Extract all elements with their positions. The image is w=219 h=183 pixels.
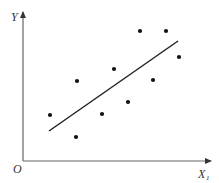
data-point bbox=[151, 78, 155, 82]
y-axis-label: Y bbox=[11, 10, 19, 24]
axes bbox=[23, 12, 211, 161]
x-axis-label-group: X 1 bbox=[197, 167, 210, 182]
data-point bbox=[112, 67, 116, 71]
x-axis-label: X bbox=[197, 167, 206, 181]
data-point bbox=[126, 100, 130, 104]
data-point bbox=[74, 135, 78, 139]
origin-label: O bbox=[13, 162, 22, 176]
data-point bbox=[138, 29, 142, 33]
data-points bbox=[48, 29, 181, 139]
regression-line bbox=[49, 41, 178, 131]
x-axis-label-subscript: 1 bbox=[206, 174, 210, 182]
data-point bbox=[164, 29, 168, 33]
data-point bbox=[75, 79, 79, 83]
data-point bbox=[177, 55, 181, 59]
data-point bbox=[48, 113, 52, 117]
data-point bbox=[100, 112, 104, 116]
scatter-chart: Y O X 1 bbox=[0, 0, 219, 183]
